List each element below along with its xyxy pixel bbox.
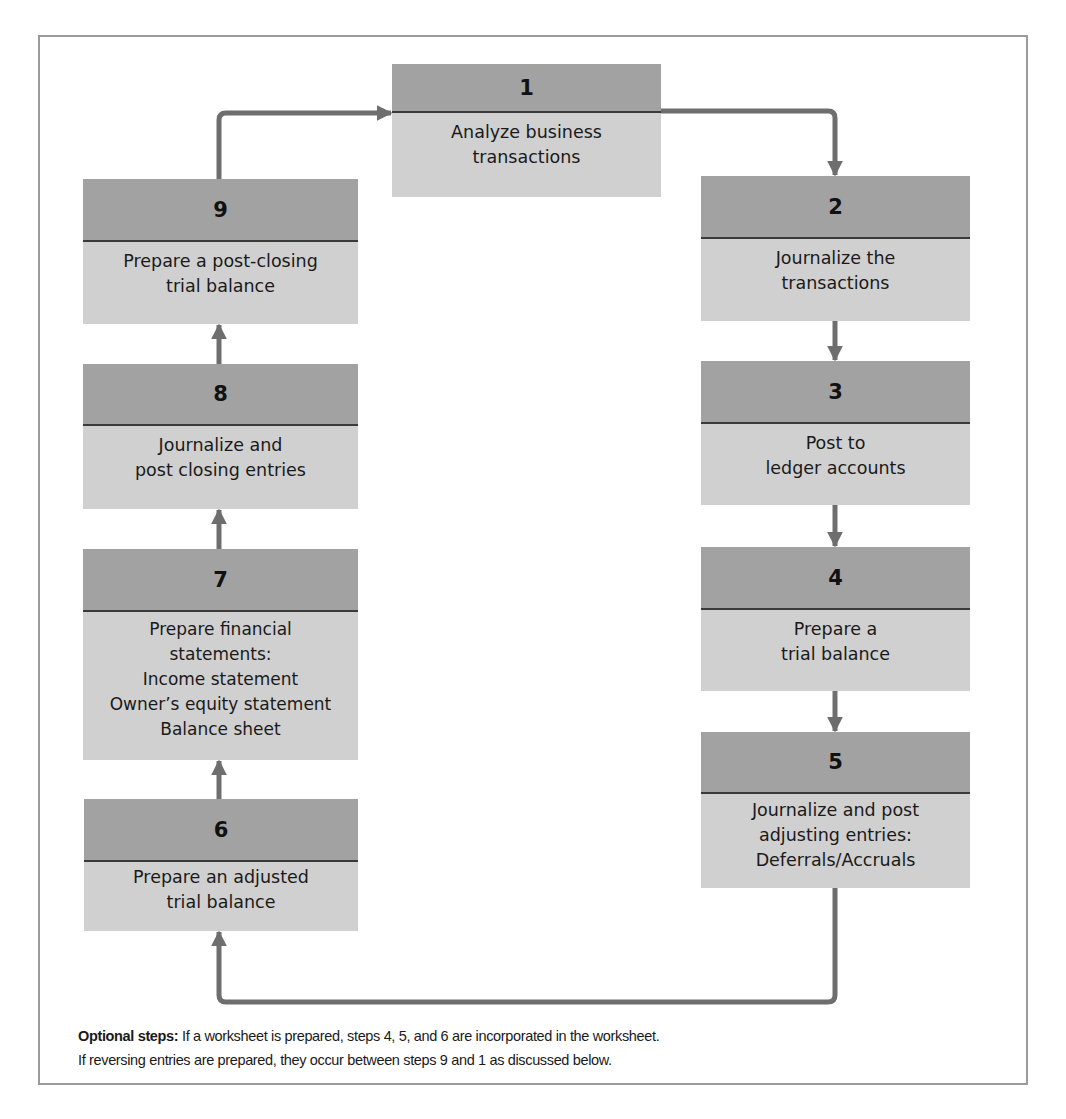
step-2-number: 2: [701, 176, 970, 239]
step-5-box: 5 Journalize and post adjusting entries:…: [701, 732, 970, 888]
step-8-number: 8: [83, 364, 358, 426]
step-1-number: 1: [392, 64, 661, 113]
step-8-description: Journalize and post closing entries: [83, 426, 358, 509]
step-9-description: Prepare a post-closing trial balance: [83, 242, 358, 324]
step-5-number: 5: [701, 732, 970, 794]
step-6-box: 6 Prepare an adjusted trial balance: [84, 799, 358, 931]
step-8-box: 8 Journalize and post closing entries: [83, 364, 358, 509]
step-1-box: 1 Analyze business transactions: [392, 64, 661, 197]
step-4-box: 4 Prepare a trial balance: [701, 547, 970, 691]
step-2-description: Journalize the transactions: [701, 239, 970, 321]
step-5-description: Journalize and post adjusting entries: D…: [701, 794, 970, 888]
step-4-number: 4: [701, 547, 970, 610]
step-3-description: Post to ledger accounts: [701, 424, 970, 505]
step-1-description: Analyze business transactions: [392, 113, 661, 197]
step-9-box: 9 Prepare a post-closing trial balance: [83, 179, 358, 324]
step-7-description: Prepare financial statements: Income sta…: [83, 612, 358, 760]
step-2-box: 2 Journalize the transactions: [701, 176, 970, 321]
note-line-1: Optional steps: If a worksheet is prepar…: [78, 1024, 659, 1048]
step-4-description: Prepare a trial balance: [701, 610, 970, 691]
optional-steps-note: Optional steps: If a worksheet is prepar…: [78, 1024, 659, 1072]
step-3-number: 3: [701, 361, 970, 424]
step-9-number: 9: [83, 179, 358, 242]
note-label: Optional steps:: [78, 1028, 178, 1044]
step-3-box: 3 Post to ledger accounts: [701, 361, 970, 505]
step-7-box: 7 Prepare financial statements: Income s…: [83, 549, 358, 760]
step-7-number: 7: [83, 549, 358, 612]
step-6-description: Prepare an adjusted trial balance: [84, 862, 358, 931]
step-6-number: 6: [84, 799, 358, 862]
note-line-2: If reversing entries are prepared, they …: [78, 1048, 659, 1072]
